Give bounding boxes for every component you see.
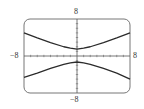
y-min-label: −8	[70, 96, 79, 104]
graph-plot	[0, 0, 144, 109]
y-max-label: 8	[74, 8, 78, 16]
x-min-label: −8	[10, 52, 19, 60]
x-max-label: 8	[133, 52, 137, 60]
